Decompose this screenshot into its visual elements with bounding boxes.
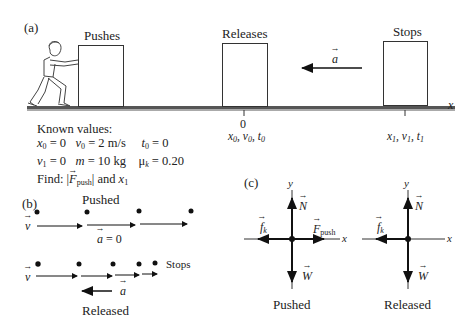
fbd-pushed-y-axis: y xyxy=(288,177,293,189)
known-values-row-2: v1 = 0 m = 10 kg μk = 0.20 xyxy=(37,154,184,172)
box-pushes xyxy=(79,46,124,107)
stage-label-stops: Stops xyxy=(393,24,422,40)
pushed-motion-title: Pushed xyxy=(82,192,120,208)
fbd-released-y-axis: y xyxy=(404,177,409,189)
released-accel-label: a xyxy=(120,284,126,299)
stage-label-pushes: Pushes xyxy=(84,28,120,44)
stage-label-releases: Releases xyxy=(222,26,267,42)
fbd-released-title: Released xyxy=(384,297,431,313)
origin-variables: x0, v0, t0 xyxy=(228,130,265,144)
box-stops xyxy=(384,42,428,106)
known-values-title: Known values: xyxy=(37,122,184,136)
fbd-pushed-x-axis: x xyxy=(342,232,347,244)
box-releases xyxy=(223,44,268,107)
pushed-accel-zero: a = 0 xyxy=(97,232,122,247)
fbd-pushed-push-force: Fpush xyxy=(313,222,335,237)
fbd-pushed-friction-force: fk xyxy=(260,220,267,235)
fbd-released-normal-force: N xyxy=(415,199,423,214)
fbd-released-x-axis: x xyxy=(447,232,452,244)
person-pushing-figure xyxy=(28,41,78,106)
fbd-pushed xyxy=(244,190,340,289)
panel-a-label: (a) xyxy=(24,20,38,36)
end-variables: x1, v1, t1 xyxy=(387,130,424,144)
pushed-motion-diagram xyxy=(35,209,194,227)
fbd-pushed-normal-force: N xyxy=(299,199,307,214)
accel-vector-label: a xyxy=(332,52,338,67)
find-statement: Find: |Fpush| and x1 xyxy=(37,172,184,190)
x-axis-label: x xyxy=(448,98,453,113)
panel-c-label: (c) xyxy=(244,175,258,191)
stops-label: Stops xyxy=(166,258,190,270)
pushed-velocity-label: v xyxy=(25,219,30,234)
fbd-released xyxy=(362,190,445,289)
known-values-block: Known values: x0 = 0 v0 = 2 m/s t0 = 0 v… xyxy=(37,122,184,190)
released-motion-diagram xyxy=(35,261,157,292)
fbd-pushed-title: Pushed xyxy=(273,297,311,313)
fbd-pushed-weight-force: W xyxy=(302,269,312,284)
released-motion-title: Released xyxy=(82,303,129,319)
fbd-released-friction-force: fk xyxy=(377,220,384,235)
known-values-row-1: x0 = 0 v0 = 2 m/s t0 = 0 xyxy=(37,136,184,154)
fbd-released-weight-force: W xyxy=(418,269,428,284)
released-velocity-label: v xyxy=(25,270,30,285)
